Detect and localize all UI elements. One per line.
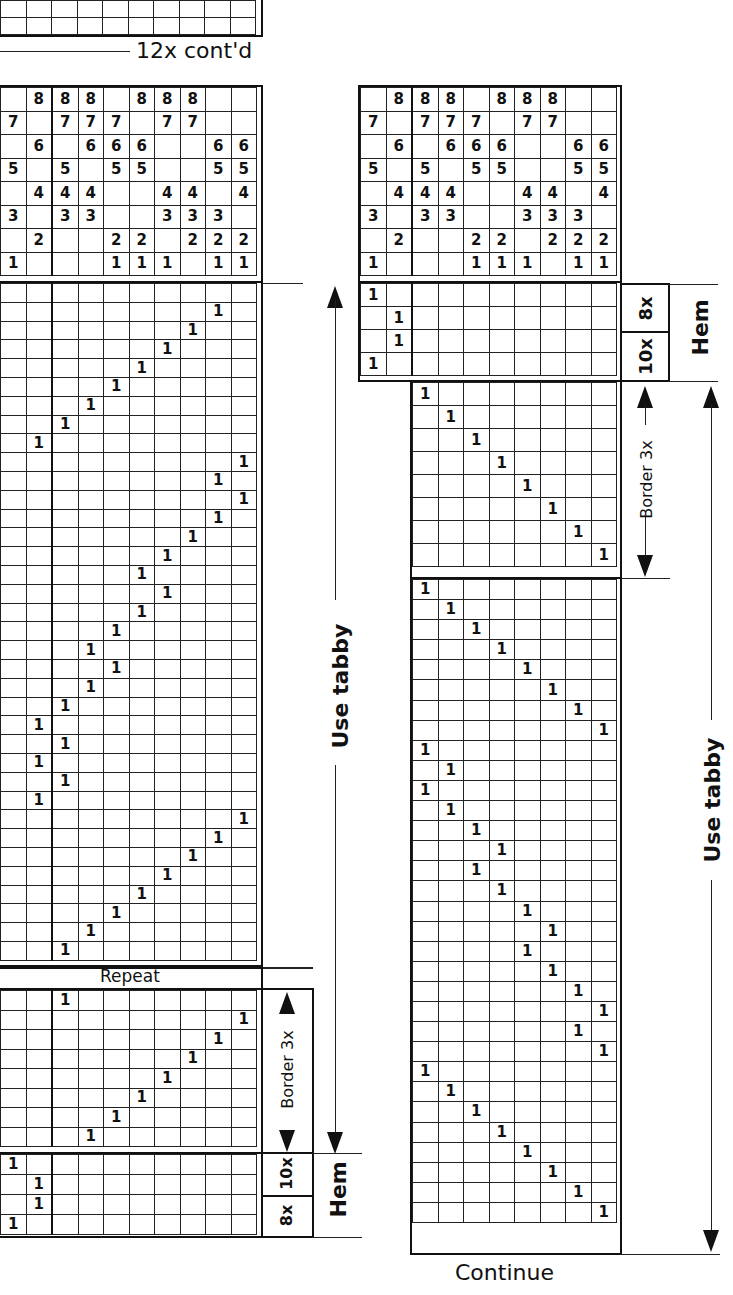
grid-cell	[104, 829, 130, 848]
grid-cell	[155, 1195, 181, 1215]
grid-cell	[1, 1127, 27, 1147]
grid-row: 1	[1, 678, 257, 697]
grid-row: 1	[1, 1069, 257, 1089]
right-hem-10x-label: 10x	[635, 332, 656, 382]
grid-cell	[413, 680, 439, 700]
grid-cell	[412, 330, 438, 353]
grid-cell	[52, 284, 78, 303]
grid-row: 1	[1, 810, 257, 829]
grid-cell: 1	[515, 1142, 541, 1162]
grid-cell	[104, 396, 130, 415]
grid-cell	[540, 521, 566, 544]
grid-cell	[231, 1049, 257, 1069]
grid-row: 1	[413, 881, 617, 901]
grid-cell	[540, 1042, 566, 1062]
grid-cell: 1	[155, 252, 181, 276]
grid-row: 1	[1, 528, 257, 547]
grid-cell	[26, 1155, 52, 1175]
grid-cell: 1	[129, 359, 155, 378]
grid-row: 333333	[361, 205, 617, 229]
grid-cell	[78, 1175, 104, 1195]
grid-cell: 6	[26, 135, 52, 159]
grid-cell	[231, 205, 257, 229]
grid-cell: 1	[129, 565, 155, 584]
grid-cell	[231, 697, 257, 716]
grid-cell	[438, 1062, 464, 1082]
grid-row: 222222	[1, 229, 257, 253]
grid-cell	[180, 135, 206, 159]
grid-cell: 6	[78, 135, 104, 159]
grid-cell	[413, 921, 439, 941]
grid-cell	[180, 377, 206, 396]
grid-cell	[515, 498, 541, 521]
grid-cell	[231, 678, 257, 697]
right-tabby-arrow-down-icon	[703, 1230, 719, 1252]
grid-cell	[566, 1202, 592, 1222]
grid-cell	[180, 603, 206, 622]
grid-cell	[104, 321, 130, 340]
grid-cell	[26, 1069, 52, 1089]
grid-cell	[231, 359, 257, 378]
grid-cell	[104, 1010, 130, 1030]
grid-cell	[464, 780, 490, 800]
grid-cell: 1	[155, 340, 181, 359]
grid-cell	[464, 700, 490, 720]
grid-cell	[180, 1088, 206, 1108]
grid-cell	[1, 697, 27, 716]
grid-cell	[515, 1082, 541, 1102]
grid-cell	[438, 1162, 464, 1182]
grid-cell	[464, 452, 490, 475]
grid-cell	[540, 452, 566, 475]
grid-cell: 4	[231, 182, 257, 206]
grid-cell	[591, 475, 617, 498]
grid-cell: 1	[52, 415, 78, 434]
grid-row: 1	[1, 302, 257, 321]
grid-cell	[26, 735, 52, 754]
grid-cell	[78, 991, 104, 1011]
grid-cell: 1	[515, 475, 541, 498]
grid-cell	[231, 991, 257, 1011]
grid-cell	[489, 1062, 515, 1082]
grid-cell	[464, 760, 490, 780]
grid-cell: 2	[566, 229, 592, 253]
grid-row: 1	[1, 847, 257, 866]
grid-cell	[438, 861, 464, 881]
grid-cell	[52, 603, 78, 622]
grid-cell: 3	[155, 205, 181, 229]
grid-cell	[231, 111, 257, 135]
grid-cell: 1	[591, 1042, 617, 1062]
grid-cell	[1, 603, 27, 622]
grid-cell	[566, 740, 592, 760]
grid-cell: 8	[180, 88, 206, 112]
grid-cell	[104, 182, 130, 206]
right-hem-8x-label: 8x	[635, 289, 656, 329]
grid-cell	[180, 415, 206, 434]
grid-cell	[515, 158, 541, 182]
right-border-table: 11111111	[412, 382, 617, 567]
grid-cell	[26, 565, 52, 584]
grid-cell	[52, 229, 78, 253]
grid-cell	[540, 158, 566, 182]
grid-cell	[1, 340, 27, 359]
grid-cell	[52, 1, 78, 18]
grid-cell	[540, 1182, 566, 1202]
grid-cell	[591, 740, 617, 760]
grid-cell	[438, 284, 464, 307]
grid-cell	[155, 791, 181, 810]
grid-cell	[591, 284, 617, 307]
top-caption-line	[0, 51, 130, 52]
grid-cell	[52, 1088, 78, 1108]
grid-cell	[489, 353, 515, 376]
grid-cell: 1	[231, 453, 257, 472]
grid-cell	[26, 603, 52, 622]
grid-cell	[515, 841, 541, 861]
grid-cell: 4	[515, 182, 541, 206]
grid-cell	[104, 753, 130, 772]
grid-cell	[26, 302, 52, 321]
grid-cell: 5	[489, 158, 515, 182]
grid-row: 1	[413, 760, 617, 780]
grid-row: 1	[413, 1122, 617, 1142]
grid-cell	[78, 1010, 104, 1030]
grid-row: 1	[1, 1127, 257, 1147]
grid-cell	[438, 921, 464, 941]
